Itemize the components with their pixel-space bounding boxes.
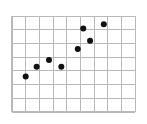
data-point [23, 73, 29, 79]
data-point [34, 64, 40, 70]
data-point [75, 46, 81, 52]
scatter-plot-figure [0, 0, 147, 124]
data-point [46, 57, 52, 63]
data-point [80, 25, 86, 31]
data-points-layer [0, 0, 147, 124]
data-point [58, 64, 64, 70]
plot-area [0, 0, 147, 124]
data-point [101, 21, 107, 27]
data-point [87, 38, 93, 44]
